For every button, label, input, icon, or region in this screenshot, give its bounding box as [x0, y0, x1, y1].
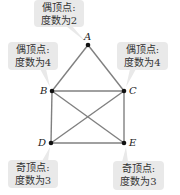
- vertex-label-d: D: [38, 137, 46, 148]
- vertex-b: [50, 89, 55, 94]
- vertex-label-c: C: [129, 85, 137, 96]
- callout-b: 偶顶点: 度数为4: [8, 42, 58, 70]
- graph-edges: [51, 45, 124, 143]
- vertex-label-e: E: [129, 137, 136, 148]
- callout-d-line1: 奇顶点:: [10, 161, 56, 174]
- callout-a: 偶顶点: 度数为2: [34, 0, 84, 27]
- callout-e-line2: 度数为3: [115, 175, 162, 188]
- callout-b-line1: 偶顶点:: [10, 43, 56, 56]
- callout-pointer-e: [122, 147, 128, 162]
- callout-c-line2: 度数为4: [119, 56, 166, 69]
- vertex-d: [49, 141, 54, 146]
- callout-a-line2: 度数为2: [36, 14, 82, 27]
- callout-c-line1: 偶顶点:: [119, 43, 166, 56]
- callout-pointer-d: [42, 147, 50, 161]
- callout-pointer-a: [66, 26, 86, 42]
- callout-e-line1: 奇顶点:: [115, 162, 162, 175]
- vertex-a: [86, 43, 91, 48]
- graph-vertices: [49, 43, 127, 146]
- callout-a-line1: 偶顶点:: [36, 1, 82, 14]
- edge-bd: [51, 91, 52, 143]
- callout-e: 奇顶点: 度数为3: [113, 161, 164, 190]
- vertex-e: [122, 141, 127, 146]
- vertex-label-a: A: [84, 31, 91, 42]
- callout-c: 偶顶点: 度数为4: [117, 42, 168, 70]
- callout-d: 奇顶点: 度数为3: [8, 160, 58, 188]
- callout-d-line2: 度数为3: [10, 174, 56, 187]
- vertex-c: [122, 89, 127, 94]
- vertex-label-b: B: [40, 85, 47, 96]
- callout-b-line2: 度数为4: [10, 56, 56, 69]
